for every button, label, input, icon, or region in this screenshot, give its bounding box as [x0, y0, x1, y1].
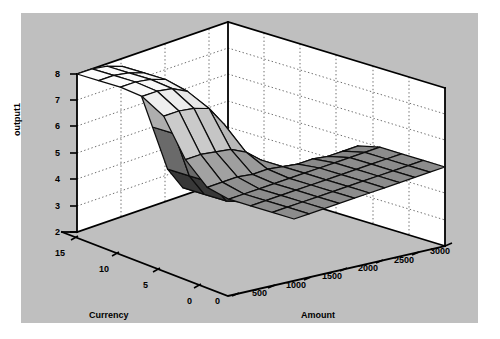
currency-axis-title: Currency [89, 310, 129, 320]
z-tick-label-8: 8 [55, 69, 60, 79]
amount-tick-label-1500: 1500 [322, 271, 342, 281]
surface-plot [0, 0, 500, 339]
amount-tick-label-1000: 1000 [286, 280, 306, 290]
amount-tick-label-3000: 3000 [430, 246, 450, 256]
screenshot-root: 8 7 6 5 4 3 2 output1 15 10 5 0 Currency… [0, 0, 500, 339]
z-tick-label-7: 7 [55, 95, 60, 105]
z-tick-label-6: 6 [55, 121, 60, 131]
currency-tick-label-0: 0 [187, 296, 192, 306]
z-tick-label-5: 5 [55, 148, 60, 158]
amount-tick-label-2500: 2500 [394, 255, 414, 265]
z-tick-label-2: 2 [55, 227, 60, 237]
z-tick-label-3: 3 [55, 201, 60, 211]
amount-tick-label-2000: 2000 [358, 263, 378, 273]
amount-tick-label-500: 500 [252, 288, 267, 298]
currency-tick-label-15: 15 [55, 248, 65, 258]
floor-front-edges [62, 232, 445, 296]
currency-tick-label-10: 10 [99, 264, 109, 274]
currency-tick-label-5: 5 [143, 280, 148, 290]
amount-tick-label-0: 0 [215, 296, 220, 306]
z-axis-title: output1 [12, 103, 22, 136]
z-tick-label-4: 4 [55, 174, 60, 184]
amount-axis-title: Amount [301, 310, 335, 320]
